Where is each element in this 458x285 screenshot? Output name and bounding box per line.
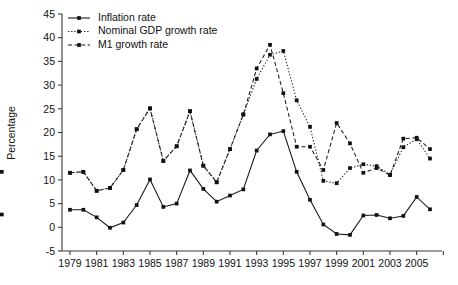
data-point <box>295 98 299 102</box>
x-tick-label: 1983 <box>112 257 136 269</box>
data-point <box>108 226 112 230</box>
data-point <box>308 125 312 129</box>
x-tick-label: 1997 <box>298 257 322 269</box>
x-tick-label: 2003 <box>378 257 402 269</box>
x-tick-label: 1981 <box>85 257 109 269</box>
data-point <box>95 216 99 220</box>
x-tick-label: 1993 <box>245 257 269 269</box>
data-point <box>0 213 4 217</box>
data-point <box>281 91 285 95</box>
x-tick-label: 2005 <box>405 257 429 269</box>
legend-marker <box>77 43 81 47</box>
data-point <box>335 181 339 185</box>
y-tick-label: 40 <box>43 31 55 43</box>
data-point <box>295 170 299 174</box>
data-point <box>188 169 192 173</box>
y-tick-label: 20 <box>43 126 55 138</box>
data-point <box>81 208 85 212</box>
data-point <box>215 200 219 204</box>
data-point <box>161 159 165 163</box>
data-point <box>148 178 152 182</box>
data-point <box>135 203 139 207</box>
legend-label: Inflation rate <box>98 11 156 23</box>
data-point <box>121 168 125 172</box>
y-tick-label: 25 <box>43 103 55 115</box>
data-point <box>375 213 379 217</box>
y-tick-label: 15 <box>43 150 55 162</box>
legend-item-inflation-rate[interactable]: Inflation rate <box>68 11 156 23</box>
data-point <box>295 145 299 149</box>
data-point <box>388 216 392 220</box>
y-tick-label: 45 <box>43 8 55 20</box>
data-point <box>215 180 219 184</box>
data-point <box>228 147 232 151</box>
data-point <box>308 145 312 149</box>
data-point <box>348 142 352 146</box>
data-point <box>401 145 405 149</box>
y-tick-label: 35 <box>43 55 55 67</box>
data-point <box>268 133 272 137</box>
data-point <box>0 170 4 174</box>
data-point <box>108 186 112 190</box>
series-m1-growth-rate <box>0 43 432 193</box>
x-tick-label: 1987 <box>165 257 189 269</box>
x-tick-label: 1979 <box>58 257 82 269</box>
data-point <box>121 221 125 225</box>
data-point <box>241 188 245 192</box>
x-tick-label: 1991 <box>218 257 242 269</box>
data-point <box>415 195 419 199</box>
data-point <box>321 223 325 227</box>
y-tick-label: 5 <box>49 197 55 209</box>
data-point <box>95 189 99 193</box>
legend-marker <box>77 30 81 34</box>
data-point <box>401 137 405 141</box>
y-tick-label: 30 <box>43 79 55 91</box>
data-point <box>135 127 139 131</box>
y-tick-label: 10 <box>43 174 55 186</box>
data-point <box>361 171 365 175</box>
x-tick-label: 1989 <box>192 257 216 269</box>
data-point <box>415 136 419 140</box>
series-path <box>70 131 430 235</box>
data-point <box>68 171 72 175</box>
data-point <box>175 144 179 148</box>
data-point <box>255 149 259 153</box>
y-axis-title: Percentage <box>5 106 17 160</box>
data-point <box>161 205 165 209</box>
x-axis: 1979198119831985198719891991199319951997… <box>58 251 443 269</box>
data-point <box>228 194 232 198</box>
data-point <box>335 121 339 125</box>
data-point <box>268 53 272 57</box>
data-point <box>428 147 432 151</box>
legend-item-m1-growth-rate[interactable]: M1 growth rate <box>68 38 168 50</box>
data-point <box>428 157 432 161</box>
data-point <box>361 162 365 166</box>
data-point <box>321 179 325 183</box>
data-point <box>255 77 259 81</box>
data-point <box>268 43 272 47</box>
data-point <box>188 109 192 113</box>
data-point <box>201 164 205 168</box>
legend-item-nominal-gdp-growth-rate[interactable]: Nominal GDP growth rate <box>68 24 218 36</box>
x-tick-label: 2001 <box>352 257 376 269</box>
data-point <box>81 170 85 174</box>
x-tick-label: 1995 <box>272 257 296 269</box>
data-point <box>428 207 432 211</box>
legend-marker <box>77 16 81 20</box>
data-point <box>321 168 325 172</box>
data-point <box>241 113 245 117</box>
data-point <box>201 187 205 191</box>
data-point <box>148 106 152 110</box>
chart-legend: Inflation rateNominal GDP growth rateM1 … <box>68 11 218 50</box>
data-point <box>68 208 72 212</box>
data-point <box>388 173 392 177</box>
data-point <box>281 49 285 53</box>
data-point <box>361 214 365 218</box>
data-point <box>348 233 352 237</box>
data-point <box>348 166 352 170</box>
line-chart: -5051015202530354045 1979198119831985198… <box>0 0 458 285</box>
data-point <box>281 129 285 133</box>
data-point <box>308 198 312 202</box>
y-tick-label: -5 <box>46 245 55 257</box>
legend-label: Nominal GDP growth rate <box>98 24 218 36</box>
